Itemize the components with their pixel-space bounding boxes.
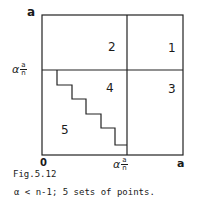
region-5-label: 5	[61, 124, 69, 136]
y-axis-top-label: a	[27, 6, 35, 18]
y-axis-mid-label: α an	[12, 62, 27, 77]
region-1-label: 1	[168, 42, 176, 54]
x-axis-origin-label: 0	[40, 158, 47, 168]
region-2-label: 2	[108, 41, 116, 53]
alpha-symbol: α	[113, 158, 120, 171]
region-4-label: 4	[106, 82, 114, 94]
x-axis-end-label: a	[177, 158, 184, 169]
region-3-label: 3	[168, 83, 176, 95]
figure-caption-title: Fig.5.12	[13, 170, 56, 179]
fraction-denominator: n	[21, 70, 25, 77]
alpha-symbol: α	[12, 63, 19, 76]
fraction-denominator: n	[122, 165, 126, 172]
figure-caption-text: α < n-1; 5 sets of points.	[14, 188, 155, 197]
x-axis-mid-label: α an	[113, 157, 128, 172]
